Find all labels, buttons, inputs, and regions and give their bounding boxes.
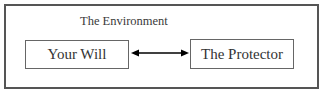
- node-your-will: Your Will: [25, 40, 129, 69]
- node-the-protector-label: The Protector: [201, 46, 283, 63]
- node-your-will-label: Your Will: [48, 46, 107, 63]
- node-the-protector: The Protector: [190, 39, 294, 69]
- bidirectional-arrow-icon: [130, 48, 190, 58]
- environment-label: The Environment: [80, 14, 168, 29]
